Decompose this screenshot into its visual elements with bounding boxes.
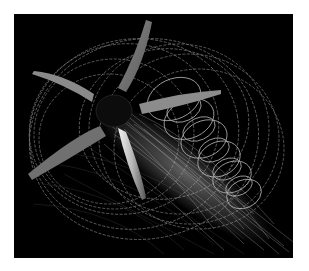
propeller-wake-render [14,14,293,258]
hub-vortex-plume [34,84,293,258]
blade-left [32,71,94,102]
blade-right [139,90,221,114]
hub [96,95,132,127]
blade-top [118,20,152,92]
visualization-panel [14,14,293,258]
blade-lower-left [28,126,106,180]
